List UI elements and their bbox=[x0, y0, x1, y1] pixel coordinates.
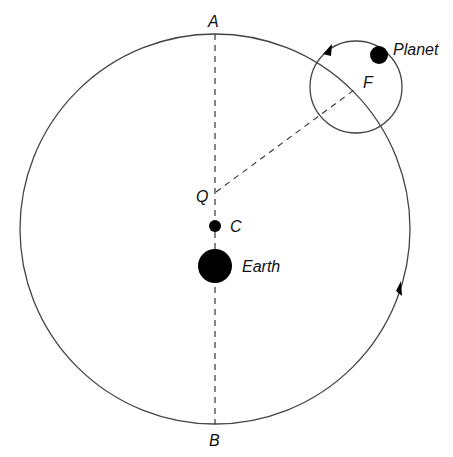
label-b: B bbox=[209, 432, 220, 449]
earth-body bbox=[198, 249, 232, 283]
label-earth: Earth bbox=[242, 258, 280, 275]
epicycle-arrow-icon bbox=[323, 44, 332, 56]
label-a: A bbox=[207, 13, 219, 30]
label-c: C bbox=[230, 218, 242, 235]
label-planet: Planet bbox=[393, 41, 439, 58]
equant-diagram: A B F Q C Earth Planet bbox=[0, 0, 453, 457]
planet-body bbox=[370, 46, 388, 64]
diagram-canvas: A B F Q C Earth Planet bbox=[0, 0, 453, 457]
epicycle-circle bbox=[310, 41, 402, 133]
label-q: Q bbox=[196, 188, 208, 205]
center-c-dot bbox=[209, 220, 221, 232]
line-q-f bbox=[216, 90, 354, 192]
label-f: F bbox=[363, 74, 374, 91]
